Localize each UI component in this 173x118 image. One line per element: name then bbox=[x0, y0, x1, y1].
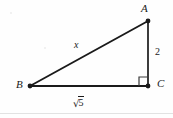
triangle-svg bbox=[0, 0, 173, 118]
side-hypotenuse-BA bbox=[30, 21, 148, 86]
side-label-vertical-leg: 2 bbox=[155, 47, 160, 57]
scan-speck bbox=[10, 12, 12, 14]
vertex-dot-a bbox=[146, 19, 151, 24]
radical-group: √5 bbox=[73, 98, 84, 109]
geometry-figure: A B C x 2 √5 bbox=[0, 0, 173, 118]
vertex-label-c: C bbox=[157, 78, 164, 89]
vertex-dot-b bbox=[28, 84, 33, 89]
scan-speck bbox=[44, 47, 46, 49]
radicand-value: 5 bbox=[78, 96, 84, 108]
side-label-hypotenuse: x bbox=[74, 40, 78, 50]
vertex-label-b: B bbox=[16, 79, 23, 90]
side-label-horizontal-leg: √5 bbox=[73, 98, 84, 109]
vertex-label-a: A bbox=[141, 3, 148, 14]
vertex-dot-c bbox=[146, 84, 151, 89]
scan-bottom-rule bbox=[0, 113, 173, 114]
